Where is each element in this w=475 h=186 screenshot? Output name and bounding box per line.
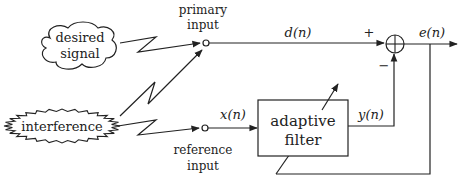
reference-input-label-line2: input [187, 159, 219, 173]
interference-source: interference [4, 109, 120, 143]
desired-label-line1: desired [55, 30, 104, 45]
desired-signal-cloud: desired signal [42, 22, 117, 69]
filter-label-line1: adaptive [270, 112, 335, 130]
primary-input-node [203, 40, 209, 46]
primary-input-label-line2: input [187, 18, 219, 32]
filter-label-line2: filter [285, 131, 323, 149]
reference-input-label-line1: reference [174, 143, 233, 157]
interference-to-primary-link [120, 50, 202, 116]
interference-to-reference-link [118, 120, 199, 135]
adaptive-filter-diagram: desired signal interference primary inpu… [0, 0, 475, 186]
primary-input-label-line1: primary [179, 3, 228, 17]
d-signal-label: d(n) [285, 25, 312, 40]
desired-to-primary-link [120, 37, 200, 52]
e-signal-label: e(n) [419, 25, 445, 40]
x-signal-label: x(n) [220, 107, 246, 122]
desired-label-line2: signal [60, 46, 99, 61]
plus-sign: + [364, 25, 375, 40]
summing-junction [386, 35, 404, 53]
interference-label: interference [21, 119, 103, 134]
minus-sign: − [379, 58, 390, 73]
y-signal-label: y(n) [357, 107, 384, 122]
reference-input-node [202, 125, 208, 131]
